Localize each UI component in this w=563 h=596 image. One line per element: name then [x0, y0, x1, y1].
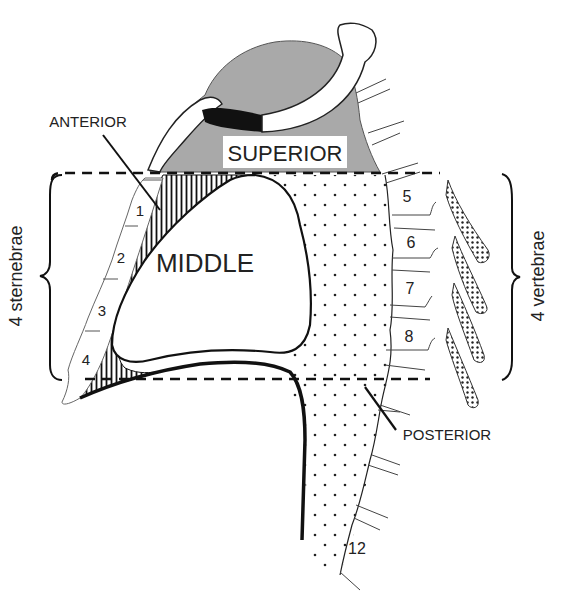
sternebrae-label: 4 sternebrae: [6, 225, 26, 326]
vertebra-6: 6: [407, 234, 416, 251]
posterior-label: POSTERIOR: [403, 426, 492, 443]
spinous-processes: [446, 180, 489, 408]
middle-label: MIDDLE: [156, 248, 254, 278]
sternebrae-brace: [40, 175, 62, 380]
vertebrae-brace: [502, 174, 520, 380]
sternebra-1: 1: [136, 202, 144, 219]
vertebrae-label: 4 vertebrae: [528, 230, 548, 321]
anterior-label: ANTERIOR: [49, 113, 127, 130]
sternebra-3: 3: [98, 302, 106, 319]
superior-label: SUPERIOR: [228, 141, 343, 166]
vertebra-12: 12: [348, 540, 366, 557]
sternebra-4: 4: [82, 351, 90, 368]
mediastinum-diagram: SUPERIOR 5 6 7 8: [0, 0, 563, 596]
sternebra-2: 2: [117, 249, 125, 266]
vertebra-8: 8: [405, 328, 414, 345]
vertebra-7: 7: [406, 280, 415, 297]
diaphragm-line: [80, 362, 305, 540]
vertebra-5: 5: [403, 188, 412, 205]
